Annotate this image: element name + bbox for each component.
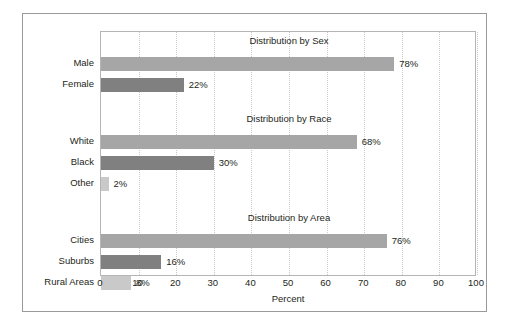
x-axis-tick-labels: 0102030405060708090100 xyxy=(100,277,476,293)
category-label: Female xyxy=(62,77,100,91)
bar[interactable] xyxy=(101,78,184,92)
section-title: Distribution by Sex xyxy=(101,35,477,46)
category-label: Rural Areas xyxy=(44,275,100,289)
category-label: White xyxy=(70,134,100,148)
bar-row: 30% xyxy=(101,156,477,170)
bar-value-label: 2% xyxy=(109,177,128,191)
x-tick-label: 50 xyxy=(283,277,294,288)
bar-value-label: 30% xyxy=(214,156,238,170)
bar-row: 68% xyxy=(101,135,477,149)
x-tick-label: 70 xyxy=(358,277,369,288)
bar-value-label: 22% xyxy=(184,78,208,92)
x-tick-label: 0 xyxy=(97,277,102,288)
bar-row: 2% xyxy=(101,177,477,191)
bar-row: 22% xyxy=(101,78,477,92)
section-title: Distribution by Area xyxy=(101,212,477,223)
bar-value-label: 76% xyxy=(387,234,411,248)
bar[interactable] xyxy=(101,234,387,248)
bar-chart: Distribution by Sex78%22%Distribution by… xyxy=(23,14,488,313)
bar-value-label: 16% xyxy=(161,255,185,269)
x-tick-label: 30 xyxy=(208,277,219,288)
category-label: Cities xyxy=(70,233,100,247)
x-tick-label: 100 xyxy=(468,277,484,288)
x-tick-label: 10 xyxy=(132,277,143,288)
bar[interactable] xyxy=(101,135,357,149)
category-axis-labels: MaleFemaleWhiteBlackOtherCitiesSuburbsRu… xyxy=(23,31,100,276)
category-label: Other xyxy=(70,176,100,190)
category-label: Suburbs xyxy=(59,254,100,268)
x-axis-title: Percent xyxy=(100,293,476,304)
chart-figure-frame: Distribution by Sex78%22%Distribution by… xyxy=(22,13,487,312)
category-label: Male xyxy=(73,56,100,70)
gridline xyxy=(477,32,478,275)
bar-row: 16% xyxy=(101,255,477,269)
x-tick-label: 90 xyxy=(433,277,444,288)
category-label: Black xyxy=(71,155,100,169)
bar-row: 76% xyxy=(101,234,477,248)
x-tick-label: 40 xyxy=(245,277,256,288)
bar-value-label: 68% xyxy=(357,135,381,149)
bar-row: 78% xyxy=(101,57,477,71)
plot-area: Distribution by Sex78%22%Distribution by… xyxy=(100,31,476,276)
bar[interactable] xyxy=(101,57,394,71)
bar[interactable] xyxy=(101,156,214,170)
bar[interactable] xyxy=(101,177,109,191)
x-tick-label: 60 xyxy=(320,277,331,288)
section-title: Distribution by Race xyxy=(101,113,477,124)
x-tick-label: 80 xyxy=(396,277,407,288)
bar-value-label: 78% xyxy=(394,57,418,71)
bar[interactable] xyxy=(101,255,161,269)
x-tick-label: 20 xyxy=(170,277,181,288)
